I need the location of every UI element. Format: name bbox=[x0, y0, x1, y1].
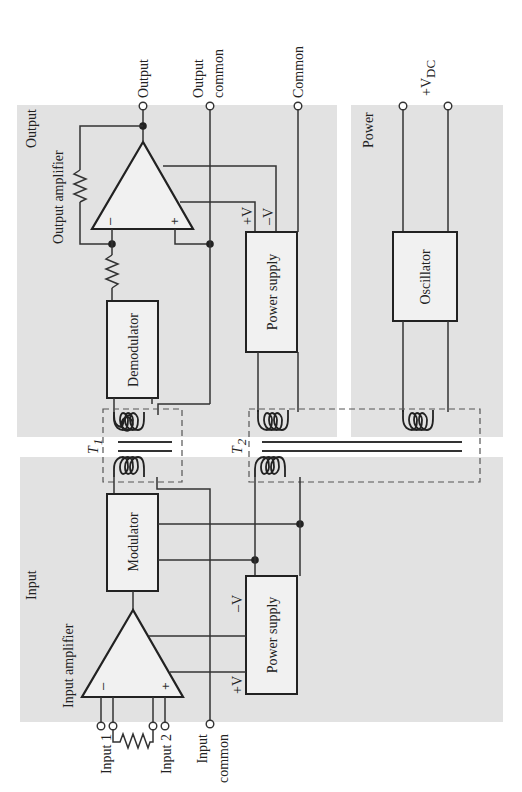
output-section-label: Output bbox=[24, 109, 39, 148]
input1-terminal-b[interactable] bbox=[109, 722, 117, 730]
isolation-amplifier-diagram: – + +V –V Demodulator Power supply Oscil… bbox=[0, 0, 522, 792]
input-power-supply-label: Power supply bbox=[265, 597, 280, 674]
output-common-label-1: Output bbox=[191, 59, 206, 98]
input-bias-resistor bbox=[113, 730, 153, 748]
output-amp-minus-sign: – bbox=[102, 217, 117, 225]
input-amp-minus-sign: – bbox=[95, 682, 110, 690]
modulator-label: Modulator bbox=[126, 512, 141, 571]
input-minus-v-label: –V bbox=[230, 595, 245, 613]
vdc-label: +VDC bbox=[419, 60, 438, 96]
input2-label: Input 2 bbox=[159, 734, 174, 774]
input-amp-plus-sign: + bbox=[158, 682, 173, 690]
output-plus-v-label: +V bbox=[240, 207, 255, 225]
t2-label: T2 bbox=[230, 438, 249, 454]
input-common-label-2: common bbox=[216, 734, 231, 783]
input-common-label-1: Input bbox=[195, 734, 210, 764]
input2-terminal-b[interactable] bbox=[161, 722, 169, 730]
input-plus-v-label: +V bbox=[230, 676, 245, 694]
t1-label: T1 bbox=[86, 439, 105, 454]
oscillator-label: Oscillator bbox=[418, 249, 433, 305]
output-amp-plus-sign: + bbox=[167, 217, 182, 225]
common-terminal-label: Common bbox=[291, 46, 306, 98]
output-amplifier-label: Output amplifier bbox=[51, 150, 66, 244]
vdc-terminal-1[interactable] bbox=[399, 102, 407, 110]
demodulator-label: Demodulator bbox=[126, 313, 141, 387]
common-terminal[interactable] bbox=[294, 102, 302, 110]
output-minus-v-label: –V bbox=[261, 208, 276, 226]
input-amplifier-label: Input amplifier bbox=[61, 623, 76, 708]
output-common-terminal[interactable] bbox=[206, 102, 214, 110]
input-section-label: Input bbox=[24, 570, 39, 600]
output-terminal-label: Output bbox=[136, 59, 151, 98]
input1-terminal-a[interactable] bbox=[97, 722, 105, 730]
output-common-label-2: common bbox=[211, 49, 226, 98]
output-power-supply-label: Power supply bbox=[265, 254, 280, 331]
power-section-label: Power bbox=[361, 112, 376, 148]
vdc-terminal-2[interactable] bbox=[444, 102, 452, 110]
input1-label: Input 1 bbox=[99, 734, 114, 774]
input2-terminal-a[interactable] bbox=[149, 722, 157, 730]
input-common-terminal[interactable] bbox=[206, 720, 214, 728]
output-terminal[interactable] bbox=[139, 102, 147, 110]
